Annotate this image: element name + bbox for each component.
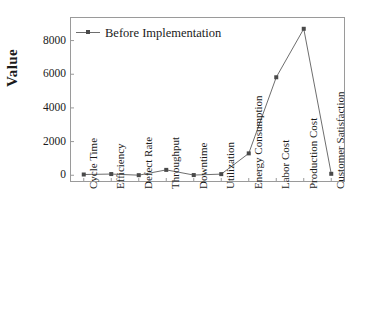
x-tick-label: Defect Rate [143,137,154,189]
x-tick-label: Energy Consumption [253,95,264,189]
x-tick-label: Cycle Time [88,138,99,189]
x-tick-label: Production Cost [308,118,319,189]
x-tick-label: Customer Satisfaction [335,92,346,189]
x-tick-label: Efficiency [115,143,126,189]
x-tick-label: Labor Cost [280,140,291,189]
chart-legend: Before Implementation [76,27,221,40]
x-tick-label: Downtime [198,143,209,189]
legend-label: Before Implementation [105,27,221,40]
legend-marker-icon [76,28,100,38]
x-axis-tick-labels: Cycle TimeEfficiencyDefect RateThroughpu… [0,0,377,328]
x-tick-label: Utilization [225,142,236,189]
x-tick-label: Throughput [170,137,181,189]
chart-figure: Value 02000400060008000 Cycle TimeEffici… [0,0,377,328]
